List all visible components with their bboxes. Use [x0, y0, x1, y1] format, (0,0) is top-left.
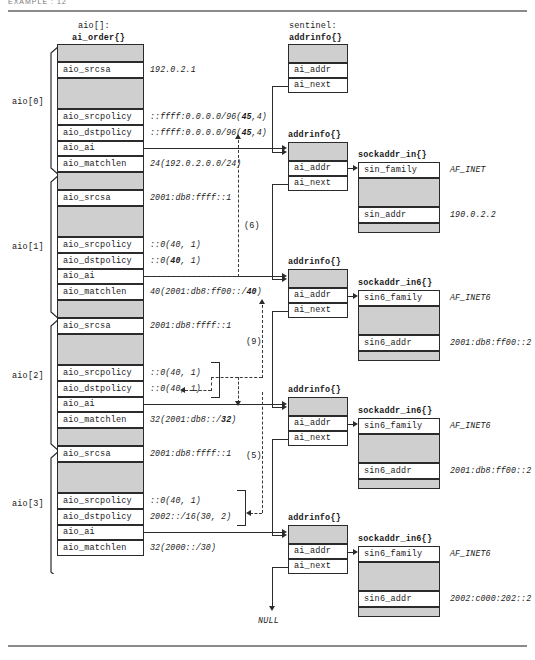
addrinfo-label-3: addrinfo{}: [288, 386, 341, 395]
aio1-value-matchlen: 40(2001:db8:ff00::/40): [150, 288, 262, 296]
node3-pad-row: [288, 397, 348, 416]
aio-index-label-2: aio[2]: [12, 372, 44, 381]
node4-field-ai-addr: ai_addr: [288, 544, 348, 559]
addrinfo-label-2: addrinfo{}: [288, 258, 341, 267]
aio1-value-srcsa: 2001:db8:ffff::1: [150, 194, 231, 202]
step5-dashed-v1: [238, 377, 239, 403]
link-node2-next-h: [272, 311, 288, 312]
aio3-field-srcpolicy: aio_srcpolicy: [57, 493, 144, 509]
link-node2-next-arrowhead: [282, 404, 287, 410]
link-node4-addr-arrowhead: [353, 549, 358, 555]
sockaddr3-pad-row-2: [358, 607, 440, 617]
link-node3-next-h2: [272, 535, 282, 536]
aio3-value-matchlen: 32(2000::/30): [150, 544, 216, 552]
sockaddr3-value-addr: 2002:c000:202::2: [450, 595, 531, 603]
aio2-pad-row-1: [57, 300, 144, 318]
aio3-pad-row-2: [57, 462, 144, 493]
node1-field-ai-next: ai_next: [288, 176, 348, 191]
sockaddr0-value-addr: 190.0.2.2: [450, 211, 496, 219]
sockaddr-label-0: sockaddr_in{}: [358, 151, 427, 160]
step6-dashed-v: [238, 140, 239, 277]
aio2-field-srcpolicy: aio_srcpolicy: [57, 365, 144, 381]
aio-index-label-3: aio[3]: [12, 500, 44, 509]
sentinel-field-ai-next: ai_next: [288, 78, 348, 93]
link-node1-next-v: [272, 184, 273, 279]
aio0-field-ai: aio_ai: [57, 141, 144, 156]
sockaddr1-value-addr: 2001:db8:ff00::2: [450, 339, 531, 347]
link-sentinel-next-h2: [272, 152, 282, 153]
step6-arrowhead: [235, 134, 241, 139]
aio0-field-matchlen: aio_matchlen: [57, 156, 144, 172]
step9-dashed-h2: [185, 390, 211, 391]
top-rule: [8, 10, 527, 12]
node1-pad-row: [288, 142, 348, 161]
aio2-value-srcsa: 2001:db8:ffff::1: [150, 322, 231, 330]
array-name-label: aio[]:: [78, 22, 110, 31]
sockaddr0-field-addr: sin_addr: [358, 207, 440, 223]
link-node1-addr-arrowhead: [353, 165, 358, 171]
aio1-pad-row-1: [57, 172, 144, 190]
node3-field-ai-addr: ai_addr: [288, 416, 348, 431]
aio1-value-dstpolicy: ::0(40, 1): [150, 257, 201, 265]
sockaddr3-value-family: AF_INET6: [450, 550, 491, 558]
aio2-pad-row-2: [57, 334, 144, 365]
top-crumb: EXAMPLE : 12: [8, 0, 67, 5]
aio1-field-srcpolicy: aio_srcpolicy: [57, 237, 144, 253]
sockaddr2-field-family: sin6_family: [358, 418, 440, 434]
step9-dashed-h1: [211, 377, 262, 378]
link-node3-next-h: [272, 439, 288, 440]
link-node4-next-v: [272, 567, 273, 608]
sockaddr3-field-family: sin6_family: [358, 546, 440, 562]
aio1-field-ai: aio_ai: [57, 269, 144, 284]
step9-dashed-v2: [211, 377, 212, 391]
sockaddr2-value-addr: 2001:db8:ff00::2: [450, 467, 531, 475]
aio3-value-srcsa: 2001:db8:ffff::1: [150, 450, 231, 458]
addrinfo-label-1: addrinfo{}: [288, 131, 341, 140]
node2-field-ai-next: ai_next: [288, 303, 348, 318]
aio2-field-srcsa: aio_srcsa: [57, 318, 144, 334]
diagram-canvas: EXAMPLE : 12 aio[]: ai_order{} sentinel:…: [0, 0, 535, 660]
step9-arrowhead: [259, 299, 265, 304]
aio2-value-matchlen: 32(2001:db8::/32): [150, 416, 236, 424]
sockaddr-label-1: sockaddr_in6{}: [358, 279, 432, 288]
aio2-field-ai: aio_ai: [57, 397, 144, 412]
aio1-value-srcpolicy: ::0(40, 1): [150, 241, 201, 249]
sentinel-pad-row: [288, 44, 348, 63]
aio3-value-dstpolicy: 2002::/16(30, 2): [150, 513, 231, 521]
step-label-9: (9): [246, 338, 262, 347]
node4-pad-row: [288, 525, 348, 544]
aio-index-label-1: aio[1]: [12, 243, 44, 252]
sockaddr0-pad-row-1: [358, 178, 440, 207]
aio0-value-srcpolicy: ::ffff:0.0.0.0/96(45,4): [150, 113, 267, 121]
sockaddr2-field-addr: sin6_addr: [358, 463, 440, 479]
node2-field-ai-addr: ai_addr: [288, 288, 348, 303]
sockaddr2-pad-row-1: [358, 434, 440, 463]
aio0-value-matchlen: 24(192.0.2.0.0/24): [150, 160, 241, 168]
aio3-value-srcpolicy: ::0(40, 1): [150, 497, 201, 505]
sockaddr2-pad-row-2: [358, 479, 440, 489]
sockaddr2-value-family: AF_INET6: [450, 422, 491, 430]
sockaddr3-pad-row-1: [358, 562, 440, 591]
link-sentinel-next-arrowhead: [282, 149, 287, 155]
link-sentinel-next-h: [272, 86, 288, 87]
aio0-field-dstpolicy: aio_dstpolicy: [57, 125, 144, 141]
node4-field-ai-next: ai_next: [288, 559, 348, 574]
step6-dashed-h: [150, 276, 238, 277]
sockaddr1-value-family: AF_INET6: [450, 294, 491, 302]
step5-arrowhead-down: [235, 401, 241, 406]
aio1-field-dstpolicy: aio_dstpolicy: [57, 253, 144, 269]
aio1-pad-row-2: [57, 206, 144, 237]
sockaddr-label-2: sockaddr_in6{}: [358, 407, 432, 416]
link-node3-next-v: [272, 439, 273, 535]
aio0-value-dstpolicy: ::ffff:0.0.0.0/96(45,4): [150, 129, 267, 137]
step-label-5: (5): [246, 452, 262, 461]
step-label-6: (6): [244, 222, 260, 231]
link-node1-next-h2: [272, 279, 282, 280]
aio3-field-matchlen: aio_matchlen: [57, 540, 144, 556]
step9-dashed-v: [262, 305, 263, 378]
aio1-field-matchlen: aio_matchlen: [57, 284, 144, 300]
node3-field-ai-next: ai_next: [288, 431, 348, 446]
policy-bracket-aio3: [237, 490, 246, 526]
aio-index-label-0: aio[0]: [12, 98, 44, 107]
link-node1-next-arrowhead: [282, 276, 287, 282]
